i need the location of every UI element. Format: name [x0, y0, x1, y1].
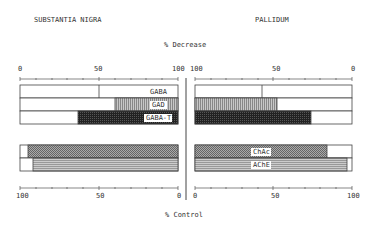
- right-decrease-bars: [195, 85, 352, 124]
- bar-label-ache: AChE: [253, 161, 270, 169]
- tick-label: 0: [18, 65, 22, 73]
- left-control-bars: [20, 145, 178, 171]
- tick-label: 100: [190, 65, 203, 73]
- tick-label: 100: [172, 65, 185, 73]
- tick-label: 50: [271, 192, 279, 200]
- left-panel-title: SUBSTANTIA NIGRA: [34, 16, 101, 24]
- chart-canvas: [0, 0, 373, 225]
- right-control-bars: [195, 145, 352, 171]
- bar-label-chac: ChAc: [253, 148, 270, 156]
- bar-label-gaba: GABA: [150, 88, 167, 96]
- tick-label: 100: [16, 192, 29, 200]
- right-panel-title: PALLIDUM: [255, 16, 289, 24]
- tick-label: 0: [177, 192, 181, 200]
- tick-label: 0: [193, 192, 197, 200]
- tick-label: 50: [94, 65, 102, 73]
- bottom-axis-label: % Control: [165, 211, 203, 219]
- bar-label-gabat: GABA-T: [146, 114, 171, 122]
- tick-label: 50: [96, 192, 104, 200]
- top-axis-label: % Decrease: [164, 41, 206, 49]
- bar-label-gad: GAD: [152, 101, 165, 109]
- tick-label: 0: [351, 65, 355, 73]
- tick-label: 100: [347, 192, 360, 200]
- tick-label: 50: [272, 65, 280, 73]
